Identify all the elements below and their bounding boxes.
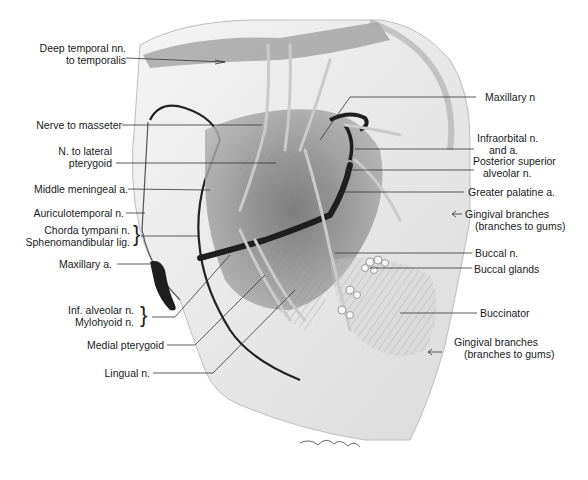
label-greater-palatine: Greater palatine a. bbox=[468, 186, 555, 198]
label-line: alveolar n. bbox=[473, 167, 556, 179]
label-line: (branches to gums) bbox=[454, 348, 554, 360]
label-infraorbital: Infraorbital n. and a. bbox=[477, 132, 538, 156]
label-line: Gingival branches bbox=[454, 336, 554, 348]
label-buccinator: Buccinator bbox=[480, 307, 530, 319]
label-nerve-to-masseter: Nerve to masseter bbox=[36, 119, 122, 131]
label-line: Gingival branches bbox=[465, 208, 565, 220]
label-deep-temporal: Deep temporal nn. to temporalis bbox=[40, 42, 126, 66]
label-line: Infraorbital n. bbox=[477, 132, 538, 144]
label-lingual-n: Lingual n. bbox=[104, 367, 150, 379]
label-line: Maxillary n bbox=[485, 91, 535, 103]
label-medial-pterygoid: Medial pterygoid bbox=[87, 339, 164, 351]
label-line: Mylohyoid n. bbox=[68, 316, 134, 328]
label-n-lateral-pterygoid: N. to lateral pterygoid bbox=[58, 145, 112, 169]
label-buccal-glands: Buccal glands bbox=[474, 263, 539, 275]
label-line: Maxillary a. bbox=[59, 258, 112, 270]
label-line: Buccinator bbox=[480, 307, 530, 319]
label-line: N. to lateral bbox=[58, 145, 112, 157]
label-maxillary-a: Maxillary a. bbox=[59, 258, 112, 270]
label-gingival-lower: Gingival branches (branches to gums) bbox=[454, 336, 554, 360]
label-line: Buccal glands bbox=[474, 263, 539, 275]
brace-icon: } bbox=[133, 221, 140, 247]
label-line: Deep temporal nn. bbox=[40, 42, 126, 54]
label-line: Nerve to masseter bbox=[36, 119, 122, 131]
label-gingival-upper: Gingival branches (branches to gums) bbox=[465, 208, 565, 232]
label-buccal-n: Buccal n. bbox=[475, 247, 518, 259]
label-line: Chorda tympani n. bbox=[26, 224, 131, 236]
label-line: Auriculotemporal n. bbox=[34, 207, 124, 219]
label-line: Middle meningeal a. bbox=[34, 183, 128, 195]
brace-icon: } bbox=[140, 302, 147, 328]
label-line: pterygoid bbox=[58, 157, 112, 169]
label-line: Sphenomandibular lig. bbox=[26, 236, 131, 248]
label-line: (branches to gums) bbox=[465, 220, 565, 232]
label-middle-meningeal: Middle meningeal a. bbox=[34, 183, 128, 195]
label-post-sup-alveolar: Posterior superior alveolar n. bbox=[473, 155, 556, 179]
label-line: Greater palatine a. bbox=[468, 186, 555, 198]
label-inf-alveolar-mylohyoid: Inf. alveolar n. Mylohyoid n. bbox=[68, 304, 134, 328]
label-line: Inf. alveolar n. bbox=[68, 304, 134, 316]
label-auriculotemporal: Auriculotemporal n. bbox=[34, 207, 124, 219]
label-maxillary-n: Maxillary n bbox=[485, 91, 535, 103]
label-chorda-sphenomandibular: Chorda tympani n. Sphenomandibular lig. bbox=[26, 224, 131, 248]
label-line: Lingual n. bbox=[104, 367, 150, 379]
label-line: to temporalis bbox=[40, 54, 126, 66]
label-line: Posterior superior bbox=[473, 155, 556, 167]
label-line: Buccal n. bbox=[475, 247, 518, 259]
label-line: Medial pterygoid bbox=[87, 339, 164, 351]
signature-mark bbox=[300, 440, 360, 447]
